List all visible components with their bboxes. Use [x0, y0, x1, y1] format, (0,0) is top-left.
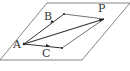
point-E	[61, 47, 63, 49]
label-A: A	[12, 38, 22, 51]
segment-EP	[62, 19, 104, 48]
point-D	[63, 13, 65, 15]
label-P: P	[98, 2, 106, 15]
plane-vector-diagram: A B C P	[0, 0, 130, 71]
label-B: B	[44, 10, 52, 23]
point-A	[23, 43, 26, 46]
label-C: C	[42, 47, 50, 60]
vector-AP	[24, 19, 104, 44]
diagram-canvas: A B C P	[0, 0, 130, 71]
